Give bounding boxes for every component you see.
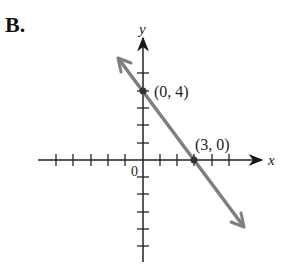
point-y-intercept (140, 88, 147, 95)
x-intercept-label: (3, 0) (195, 136, 230, 154)
y-axis (137, 38, 149, 262)
coordinate-plane: y x 0 (0, 4) (3, 0) (0, 0, 286, 273)
y-intercept-label: (0, 4) (154, 83, 189, 101)
point-x-intercept (191, 157, 198, 164)
origin-label: 0 (131, 164, 138, 179)
x-axis-label: x (267, 152, 275, 168)
y-axis-label: y (137, 21, 146, 37)
x-axis (38, 154, 262, 166)
